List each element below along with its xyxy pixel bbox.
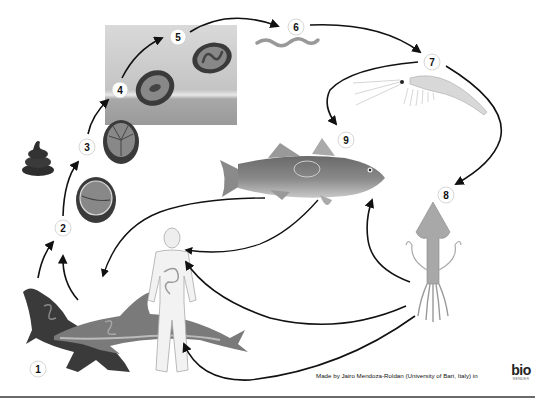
feces-icon: [22, 141, 54, 176]
egg-two-cell-icon: [76, 177, 116, 223]
arrow-7-to-8: [446, 66, 501, 184]
step-8-marker: 8: [438, 187, 454, 203]
credit-text: Made by Jairo Mendoza-Roldan (University…: [316, 372, 478, 379]
life-cycle-diagram: 1 2 3 4 5 6 7 8 9: [0, 0, 535, 409]
step-1-marker: 1: [30, 361, 46, 377]
svg-text:1: 1: [35, 364, 41, 375]
squid-icon: [406, 202, 461, 322]
svg-text:8: 8: [443, 190, 449, 201]
arrow-1-to-2b: [63, 256, 78, 300]
step-9-marker: 9: [338, 132, 354, 148]
larva-worm-icon: [257, 39, 318, 46]
fish-icon: [220, 138, 385, 205]
egg-four-cell-icon: [103, 120, 139, 164]
arrow-squid-to-human-1: [186, 262, 406, 324]
krill-icon: [353, 76, 487, 115]
arrow-squid-to-fish: [367, 200, 410, 282]
step-2-marker: 2: [55, 220, 71, 236]
biorender-logo: bio RENDER: [508, 363, 534, 381]
arrow-7-to-9: [327, 62, 418, 124]
step-7-marker: 7: [424, 54, 440, 70]
step-5-marker: 5: [170, 29, 186, 45]
svg-text:4: 4: [117, 85, 123, 96]
svg-text:5: 5: [175, 32, 181, 43]
arrow-6-to-7: [310, 25, 420, 52]
arrow-fish-to-human: [186, 200, 318, 252]
arrow-2-to-3: [63, 162, 78, 216]
svg-text:6: 6: [293, 22, 299, 33]
arrow-1-to-2a: [38, 242, 53, 278]
svg-text:7: 7: [429, 57, 435, 68]
svg-text:3: 3: [84, 142, 90, 153]
svg-text:2: 2: [60, 223, 66, 234]
svg-text:9: 9: [343, 135, 349, 146]
step-4-marker: 4: [112, 82, 128, 98]
bottom-divider: [0, 396, 535, 398]
human-icon: [148, 228, 196, 372]
step-6-marker: 6: [288, 19, 304, 35]
arrow-squid-to-human-2: [184, 316, 415, 380]
logo-main-text: bio: [508, 363, 534, 377]
step-3-marker: 3: [79, 139, 95, 155]
